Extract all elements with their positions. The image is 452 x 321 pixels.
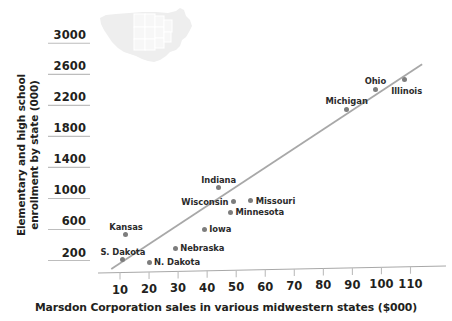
y-axis-tick-label: 200 [40, 246, 86, 260]
data-point-label: Wisconsin [181, 197, 228, 207]
data-point-label: S. Dakota [100, 247, 145, 257]
scatter-chart: 200600100014001800220026003000 102030405… [0, 0, 452, 321]
data-point-label: Nebraska [180, 243, 224, 253]
data-point-label: Minnesota [235, 207, 284, 217]
y-axis-tick-label: 3000 [40, 28, 86, 42]
data-point-label: Kansas [109, 222, 142, 232]
x-axis-title: Marsdon Corporation sales in various mid… [0, 301, 452, 314]
data-point[interactable] [228, 210, 233, 215]
data-point-label: Iowa [209, 224, 231, 234]
data-point-label: Indiana [201, 175, 236, 185]
data-point-label: Ohio [365, 76, 387, 86]
data-point-label: N. Dakota [154, 257, 200, 267]
data-point-label: Missouri [256, 196, 296, 206]
y-axis-tick-label: 1800 [40, 121, 86, 135]
y-axis-title-line1: Elementary and high school [15, 74, 27, 236]
y-axis-tick-label: 2200 [40, 90, 86, 104]
y-axis-tick-label: 2600 [40, 59, 86, 73]
y-axis-tick-label: 600 [40, 214, 86, 228]
y-axis-tick-label: 1000 [40, 183, 86, 197]
trend-line [111, 64, 422, 269]
y-axis-title: Elementary and high school enrollment by… [15, 50, 41, 260]
data-point[interactable] [344, 107, 349, 112]
y-axis-title-line2: enrollment by state (000) [28, 80, 40, 230]
data-point[interactable] [202, 227, 207, 232]
data-point[interactable] [373, 87, 378, 92]
y-axis-tick-label: 1400 [40, 152, 86, 166]
data-point[interactable] [231, 199, 236, 204]
data-point-label: Illinois [391, 86, 422, 96]
x-axis-tick-label: 110 [391, 277, 431, 291]
data-point[interactable] [147, 260, 152, 265]
data-point[interactable] [173, 246, 178, 251]
data-point-label: Michigan [326, 96, 368, 106]
